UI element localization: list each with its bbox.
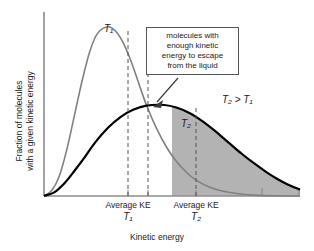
y-axis-title-line-2: with a given kinetic energy (25, 46, 36, 196)
y-axis-title-line-1: Fraction of molecules (14, 46, 25, 196)
escape-energy-callout: molecules with enough kinetic energy to … (146, 27, 239, 75)
kinetic-energy-distribution-figure: Fraction of molecules with a given kinet… (0, 0, 314, 251)
tick-label-2-line-2: T₂ (156, 211, 236, 222)
callout-line-2: enough kinetic (149, 41, 236, 51)
y-axis-title: Fraction of molecules with a given kinet… (14, 46, 38, 196)
x-axis-title: Kinetic energy (0, 232, 314, 242)
escape-region-shading (172, 107, 300, 196)
curve-label-t1: T₁ (104, 23, 113, 34)
callout-line-3: energy to escape (149, 51, 236, 61)
curve-label-t2: T₂ (181, 118, 191, 129)
callout-line-4: from the liquid (149, 61, 236, 71)
tick-label-average-ke-t2: Average KE T₂ (156, 200, 236, 222)
temperature-relation-annotation: T₂ > T₁ (222, 94, 253, 105)
tick-label-2-line-1: Average KE (156, 200, 236, 211)
callout-line-1: molecules with (149, 31, 236, 41)
callout-arrow-line (157, 78, 178, 102)
